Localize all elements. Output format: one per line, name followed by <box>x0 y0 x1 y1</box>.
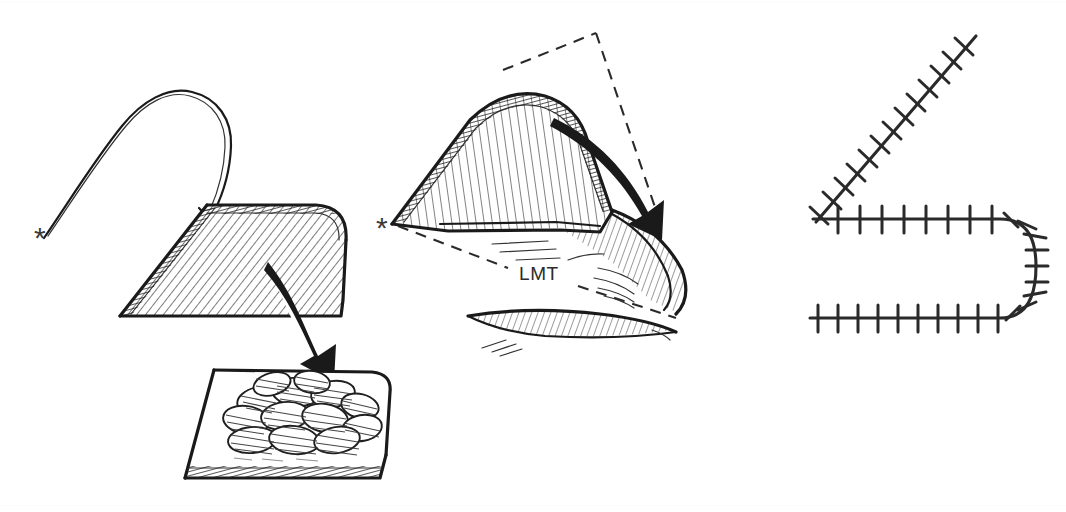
panel-2-flap-rotation: * LMT <box>376 33 710 356</box>
surgical-illustration: * <box>0 0 1066 512</box>
recipient-bed-panel-1 <box>183 368 393 480</box>
closure-suture-line <box>810 206 1048 332</box>
diagonal-suture-line <box>810 36 976 224</box>
pivot-asterisk-panel-1: * <box>34 221 46 254</box>
donor-defect-panel-2 <box>460 300 685 346</box>
panel-1-flap-harvest: * <box>34 91 393 480</box>
hatched-flap-panel-1 <box>110 195 370 335</box>
pivot-asterisk-panel-2: * <box>376 211 388 244</box>
lmt-label: LMT <box>519 263 559 284</box>
panel-3-sutured-closure <box>810 36 1048 332</box>
figure-root: * <box>0 0 1066 512</box>
hatched-flap-raised-panel-2 <box>385 85 625 245</box>
